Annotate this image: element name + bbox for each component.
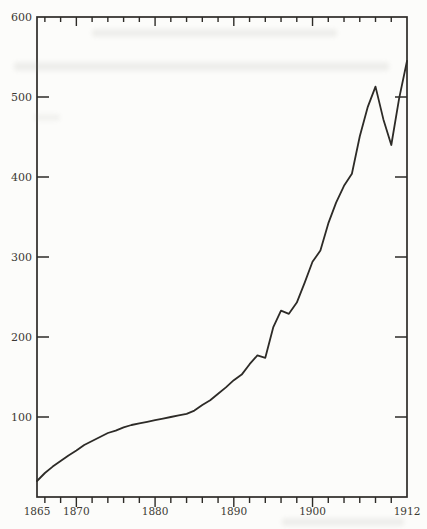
x-tick-label: 1890: [220, 505, 247, 517]
x-tick-label: 1900: [299, 505, 326, 517]
y-tick-label: 200: [11, 331, 32, 344]
axis-box: [37, 17, 407, 497]
data-line: [37, 61, 407, 481]
x-tick-label: 1912: [394, 505, 421, 517]
y-axis-labels: 600500400300200100: [11, 11, 32, 424]
y-tick-label: 600: [11, 11, 32, 24]
x-tick-label: 1880: [142, 505, 169, 517]
y-axis-ticks-left: [37, 97, 49, 417]
x-tick-label: 1870: [63, 505, 90, 517]
scanned-line-chart-figure: 6005004003002001001865187018801890190019…: [0, 0, 427, 529]
y-tick-label: 300: [11, 251, 32, 264]
line-chart: 6005004003002001001865187018801890190019…: [0, 0, 427, 529]
x-axis-ticks-top: [45, 17, 391, 26]
y-tick-label: 400: [11, 171, 32, 184]
y-axis-ticks-right: [395, 97, 407, 417]
data-series: [37, 61, 407, 481]
x-tick-label: 1865: [24, 505, 51, 517]
chart-frame: [37, 17, 407, 497]
y-tick-label: 500: [11, 91, 32, 104]
x-axis-ticks-bottom: [45, 497, 391, 507]
y-tick-label: 100: [11, 411, 32, 424]
x-axis-labels: 186518701880189019001912: [24, 505, 421, 517]
